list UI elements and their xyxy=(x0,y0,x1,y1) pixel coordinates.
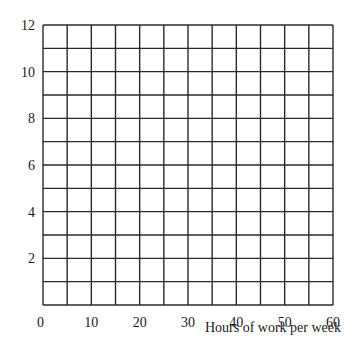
x-tick-label: 10 xyxy=(84,315,98,330)
y-axis-tick-labels: 24681012 xyxy=(21,18,35,266)
y-tick-label: 12 xyxy=(21,18,35,33)
y-tick-label: 4 xyxy=(28,205,35,220)
x-tick-label: 30 xyxy=(181,315,195,330)
x-axis-label: Hours of work per week xyxy=(205,320,341,335)
blank-graph-grid: 24681012 0102030405060 Hours of work per… xyxy=(0,0,359,364)
grid-lines xyxy=(43,25,333,305)
x-tick-label: 0 xyxy=(37,315,44,330)
y-tick-label: 2 xyxy=(28,251,35,266)
y-tick-label: 10 xyxy=(21,65,35,80)
y-tick-label: 8 xyxy=(28,111,35,126)
x-tick-label: 20 xyxy=(133,315,147,330)
y-tick-label: 6 xyxy=(28,158,35,173)
